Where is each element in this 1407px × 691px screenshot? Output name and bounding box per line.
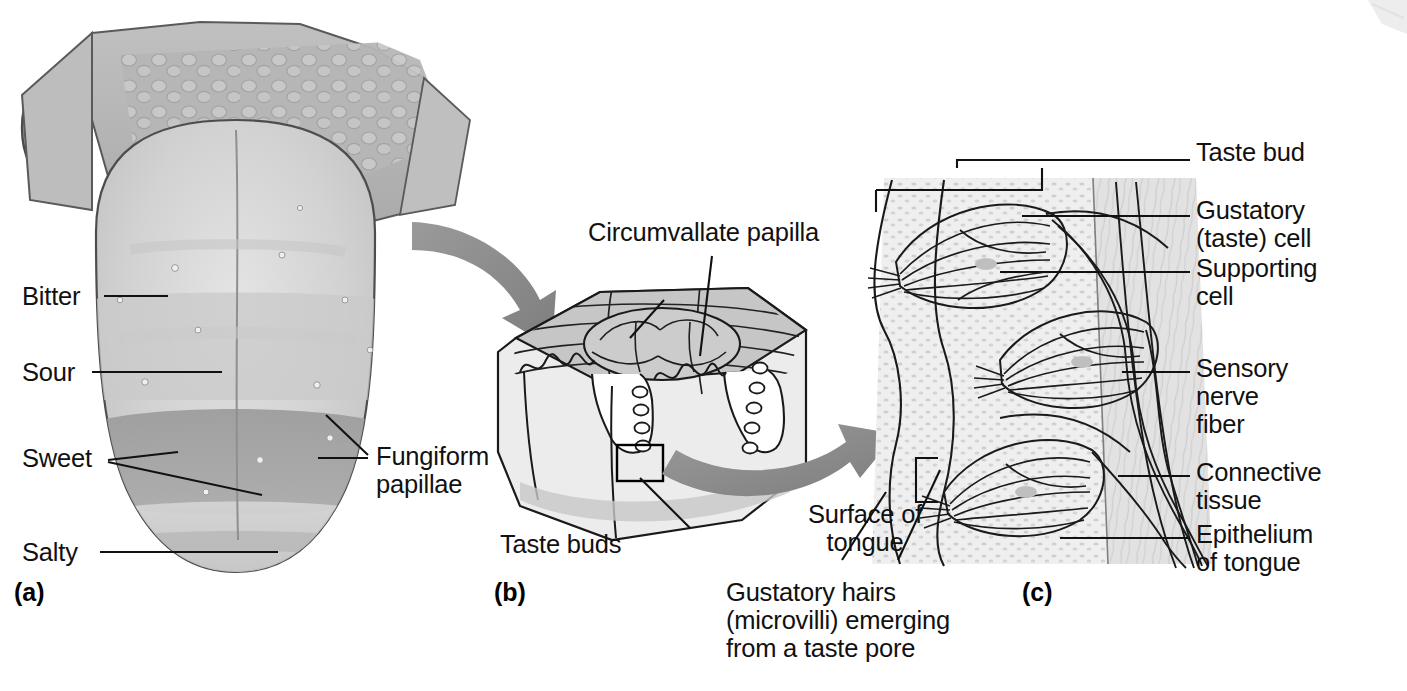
label-bitter: Bitter	[22, 282, 80, 310]
figure-artwork	[0, 0, 1407, 691]
taste-cell-nucleus	[1071, 356, 1093, 368]
label-epithelium-of-tongue: Epithelium of tongue	[1196, 520, 1313, 576]
label-connective-tissue: Connective tissue	[1196, 458, 1322, 514]
label-supporting-cell: Supporting cell	[1196, 254, 1317, 310]
label-sensory-nerve-fiber: Sensory nerve fiber	[1196, 354, 1288, 438]
scan-edge-artifact	[1368, 0, 1407, 34]
panel-label-b: (b)	[494, 578, 526, 607]
label-sour: Sour	[22, 358, 75, 386]
label-circumvallate-papilla: Circumvallate papilla	[588, 218, 819, 246]
taste-cell-nucleus	[975, 258, 997, 270]
label-salty: Salty	[22, 538, 78, 566]
label-taste-buds: Taste buds	[500, 530, 621, 558]
label-gustatory-cell: Gustatory (taste) cell	[1196, 196, 1311, 252]
taste-cell-nucleus	[1015, 486, 1037, 498]
label-fungiform-papillae: Fungiform papillae	[376, 442, 489, 498]
taste-bud-figure: Bitter Sour Sweet Salty Fungiform papill…	[0, 0, 1407, 691]
tongue-left-wing	[22, 33, 92, 210]
label-gustatory-hairs: Gustatory hairs (microvilli) emerging fr…	[726, 578, 950, 662]
label-surface-of-tongue: Surface of tongue	[772, 500, 958, 556]
label-taste-bud: Taste bud	[1196, 138, 1305, 166]
panel-label-c: (c)	[1022, 578, 1053, 607]
panel-label-a: (a)	[14, 578, 45, 607]
label-sweet: Sweet	[22, 444, 92, 472]
